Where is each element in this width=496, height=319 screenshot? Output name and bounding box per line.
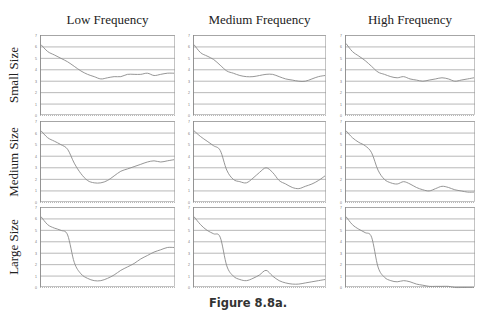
svg-text:4: 4 xyxy=(340,155,342,159)
svg-text:1: 1 xyxy=(35,103,37,107)
svg-text:5: 5 xyxy=(35,57,37,61)
svg-text:2: 2 xyxy=(35,263,37,267)
svg-text:7: 7 xyxy=(340,206,342,210)
svg-text:4: 4 xyxy=(35,240,37,244)
svg-text:6: 6 xyxy=(340,217,342,221)
row-title-large-size: Large Size xyxy=(0,207,28,287)
svg-text:1: 1 xyxy=(188,103,190,107)
svg-text:0: 0 xyxy=(188,114,190,118)
row-title-medium-size: Medium Size xyxy=(0,121,28,202)
svg-text:7: 7 xyxy=(35,120,37,124)
svg-text:1: 1 xyxy=(340,275,342,279)
svg-text:2: 2 xyxy=(340,178,342,182)
svg-text:7: 7 xyxy=(188,34,190,38)
svg-text:6: 6 xyxy=(188,132,190,136)
svg-text:1: 1 xyxy=(188,275,190,279)
chart-panel-medium-size-low-frequency: 01234567 xyxy=(32,121,175,203)
data-line xyxy=(346,44,474,82)
svg-text:7: 7 xyxy=(340,120,342,124)
data-line xyxy=(194,217,325,285)
chart-panel-small-size-medium-frequency: 01234567 xyxy=(185,35,326,116)
svg-text:7: 7 xyxy=(35,34,37,38)
svg-text:6: 6 xyxy=(340,45,342,49)
svg-text:6: 6 xyxy=(340,132,342,136)
svg-text:6: 6 xyxy=(35,45,37,49)
chart-panel-medium-size-high-frequency: 01234567 xyxy=(337,121,475,203)
svg-text:5: 5 xyxy=(188,229,190,233)
column-title-low-frequency: Low Frequency xyxy=(40,12,175,28)
column-title-high-frequency: High Frequency xyxy=(345,12,475,28)
svg-text:0: 0 xyxy=(340,286,342,290)
svg-text:7: 7 xyxy=(35,206,37,210)
svg-text:0: 0 xyxy=(35,201,37,205)
svg-text:0: 0 xyxy=(35,114,37,118)
svg-text:7: 7 xyxy=(188,206,190,210)
svg-text:4: 4 xyxy=(188,240,190,244)
svg-text:2: 2 xyxy=(35,178,37,182)
svg-text:1: 1 xyxy=(188,189,190,193)
svg-text:0: 0 xyxy=(340,114,342,118)
chart-panel-large-size-high-frequency: 01234567 xyxy=(337,207,475,288)
svg-text:3: 3 xyxy=(188,80,190,84)
svg-text:5: 5 xyxy=(188,57,190,61)
svg-text:2: 2 xyxy=(35,91,37,95)
data-line xyxy=(194,131,325,189)
svg-text:3: 3 xyxy=(188,166,190,170)
svg-text:2: 2 xyxy=(340,263,342,267)
svg-text:4: 4 xyxy=(340,68,342,72)
svg-text:1: 1 xyxy=(340,189,342,193)
figure-caption: Figure 8.8a. xyxy=(0,296,496,310)
svg-text:3: 3 xyxy=(340,80,342,84)
data-line xyxy=(194,45,325,82)
data-line xyxy=(41,45,174,79)
svg-text:5: 5 xyxy=(35,143,37,147)
svg-text:3: 3 xyxy=(340,166,342,170)
data-line xyxy=(346,217,474,288)
svg-text:4: 4 xyxy=(188,155,190,159)
svg-text:3: 3 xyxy=(35,80,37,84)
svg-text:5: 5 xyxy=(340,229,342,233)
svg-text:2: 2 xyxy=(340,91,342,95)
svg-text:4: 4 xyxy=(35,68,37,72)
svg-text:3: 3 xyxy=(340,252,342,256)
data-line xyxy=(41,217,174,281)
svg-text:5: 5 xyxy=(340,57,342,61)
svg-text:1: 1 xyxy=(35,189,37,193)
row-title-small-size: Small Size xyxy=(0,35,28,115)
column-title-medium-frequency: Medium Frequency xyxy=(193,12,326,28)
svg-text:4: 4 xyxy=(35,155,37,159)
svg-text:0: 0 xyxy=(188,286,190,290)
svg-text:6: 6 xyxy=(35,217,37,221)
svg-text:6: 6 xyxy=(188,45,190,49)
chart-panel-small-size-low-frequency: 01234567 xyxy=(32,35,175,116)
data-line xyxy=(41,131,174,183)
chart-panel-medium-size-medium-frequency: 01234567 xyxy=(185,121,326,203)
svg-text:4: 4 xyxy=(340,240,342,244)
svg-text:3: 3 xyxy=(35,252,37,256)
svg-text:0: 0 xyxy=(35,286,37,290)
data-line xyxy=(346,131,474,192)
svg-text:0: 0 xyxy=(188,201,190,205)
svg-text:0: 0 xyxy=(340,201,342,205)
svg-text:6: 6 xyxy=(35,132,37,136)
chart-panel-small-size-high-frequency: 01234567 xyxy=(337,35,475,116)
svg-text:5: 5 xyxy=(188,143,190,147)
svg-text:1: 1 xyxy=(340,103,342,107)
svg-text:6: 6 xyxy=(188,217,190,221)
chart-panel-large-size-medium-frequency: 01234567 xyxy=(185,207,326,288)
svg-text:3: 3 xyxy=(188,252,190,256)
chart-panel-large-size-low-frequency: 01234567 xyxy=(32,207,175,288)
svg-text:7: 7 xyxy=(188,120,190,124)
svg-text:5: 5 xyxy=(35,229,37,233)
svg-text:1: 1 xyxy=(35,275,37,279)
svg-text:2: 2 xyxy=(188,178,190,182)
svg-text:5: 5 xyxy=(340,143,342,147)
svg-text:7: 7 xyxy=(340,34,342,38)
svg-text:3: 3 xyxy=(35,166,37,170)
svg-text:2: 2 xyxy=(188,91,190,95)
svg-text:4: 4 xyxy=(188,68,190,72)
svg-text:2: 2 xyxy=(188,263,190,267)
